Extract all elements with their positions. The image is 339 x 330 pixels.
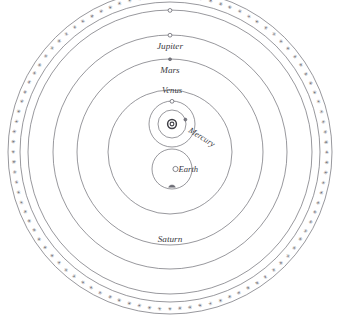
star-icon: ✳ (11, 129, 17, 134)
star-icon: ✳ (107, 293, 113, 300)
star-icon: ✳ (218, 0, 224, 7)
star-icon: ✳ (42, 244, 49, 251)
star-icon: ✳ (291, 53, 298, 60)
star-icon: ✳ (245, 284, 251, 291)
star-icon: ✳ (10, 150, 16, 154)
star-icon: ✳ (158, 305, 162, 311)
star-icon: ✳ (311, 209, 318, 215)
star-icon: ✳ (315, 99, 322, 105)
mars-marker (169, 58, 172, 61)
star-icon: ✳ (26, 80, 33, 86)
star-icon: ✳ (98, 289, 104, 296)
star-icon: ✳ (311, 89, 318, 95)
star-icon: ✳ (80, 18, 87, 25)
star-icon: ✳ (277, 38, 284, 45)
star-icon: ✳ (208, 0, 213, 4)
star-icon: ✳ (31, 70, 38, 76)
star-icon: ✳ (323, 160, 329, 164)
star-icon: ✳ (71, 273, 78, 280)
star-icon: ✳ (49, 45, 56, 52)
star-icon: ✳ (245, 13, 251, 20)
star-icon: ✳ (107, 4, 113, 11)
star-icon: ✳ (320, 119, 327, 124)
star-icon: ✳ (318, 190, 325, 195)
star-icon: ✳ (236, 8, 242, 15)
star-icon: ✳ (198, 302, 203, 309)
star-icon: ✳ (13, 180, 20, 185)
star-icon: ✳ (98, 8, 104, 15)
star-icon: ✳ (80, 279, 87, 286)
star-icon: ✳ (284, 252, 291, 259)
star-icon: ✳ (15, 109, 22, 114)
star-icon: ✳ (36, 62, 43, 69)
star-icon: ✳ (10, 140, 16, 144)
star-icon: ✳ (22, 209, 29, 215)
star-icon: ✳ (302, 70, 309, 76)
moon-marker (169, 185, 176, 187)
star-icon: ✳ (137, 302, 142, 309)
star-icon: ✳ (227, 293, 233, 300)
star-icon: ✳ (18, 200, 25, 206)
star-icon: ✳ (320, 180, 327, 185)
star-icon: ✳ (127, 300, 132, 307)
star-icon: ✳ (302, 227, 309, 233)
mars-label: Mars (159, 65, 180, 75)
star-icon: ✳ (11, 170, 17, 175)
sun-orbit (108, 90, 232, 214)
star-icon: ✳ (307, 218, 314, 224)
star-icon: ✳ (297, 62, 304, 69)
star-icon: ✳ (56, 259, 63, 266)
star-icon: ✳ (127, 0, 132, 4)
mercury-marker (184, 118, 187, 121)
star-icon: ✳ (318, 109, 325, 114)
star-icon: ✳ (13, 119, 20, 124)
saturn-label: Saturn (158, 234, 183, 244)
earth-marker (173, 166, 178, 171)
saturn-marker (168, 9, 172, 13)
star-icon: ✳ (254, 279, 261, 286)
star-icon: ✳ (188, 304, 193, 310)
star-icon: ✳ (42, 53, 49, 60)
star-icon: ✳ (49, 252, 56, 259)
star-icon: ✳ (315, 200, 322, 206)
star-icon: ✳ (137, 0, 142, 2)
star-icon: ✳ (88, 13, 94, 20)
star-icon: ✳ (147, 304, 152, 310)
star-icon: ✳ (178, 305, 182, 311)
star-icon: ✳ (117, 0, 123, 7)
star-icon: ✳ (227, 4, 233, 11)
saturn-orbit (28, 10, 312, 294)
sun-symbol-inner (170, 122, 174, 126)
star-icon: ✳ (236, 289, 242, 296)
star-icon: ✳ (10, 160, 16, 164)
star-icon: ✳ (284, 45, 291, 52)
star-icon: ✳ (18, 99, 25, 105)
star-icon: ✳ (324, 150, 330, 154)
star-icon: ✳ (88, 284, 94, 291)
star-icon: ✳ (277, 259, 284, 266)
star-icon: ✳ (117, 297, 123, 304)
star-icon: ✳ (71, 24, 78, 31)
orbit-circles (28, 10, 312, 294)
star-icon: ✳ (31, 227, 38, 233)
star-icon: ✳ (291, 244, 298, 251)
star-icon: ✳ (322, 129, 328, 134)
venus-marker (170, 99, 174, 103)
earth-label: Earth (178, 164, 199, 174)
jupiter-marker (168, 33, 172, 37)
cosmos-svg: ✳✳✳✳✳✳✳✳✳✳✳✳✳✳✳✳✳✳✳✳✳✳✳✳✳✳✳✳✳✳✳✳✳✳✳✳✳✳✳✳… (0, 0, 339, 330)
star-icon: ✳ (262, 273, 269, 280)
star-icon: ✳ (36, 236, 43, 243)
jupiter-label: Jupiter (157, 41, 183, 51)
star-icon: ✳ (322, 170, 328, 175)
star-icon: ✳ (323, 140, 329, 144)
star-icon: ✳ (297, 236, 304, 243)
star-icon: ✳ (254, 18, 261, 25)
mercury-label: Mercury (186, 124, 217, 149)
star-icon: ✳ (63, 266, 70, 273)
star-icon: ✳ (307, 80, 314, 86)
star-icon: ✳ (218, 297, 224, 304)
star-icon: ✳ (63, 31, 70, 38)
star-icon: ✳ (56, 38, 63, 45)
star-icon: ✳ (22, 89, 29, 95)
